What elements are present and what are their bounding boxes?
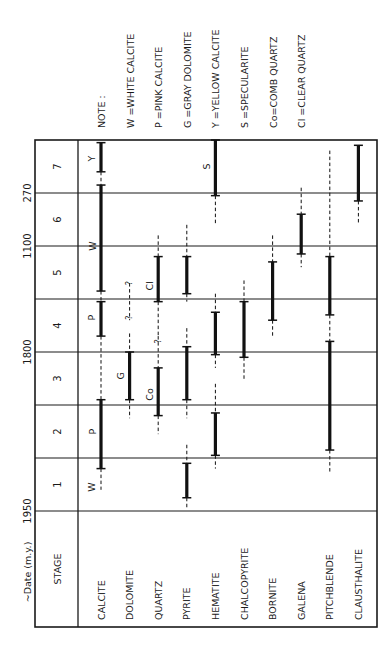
phase-label: W	[87, 241, 98, 251]
phase-label: Y	[87, 155, 98, 162]
stage-number: 6	[52, 216, 63, 222]
phase-label: W	[87, 482, 98, 492]
phase-label: ?	[125, 315, 134, 319]
stage-header: STAGE	[52, 554, 63, 585]
stage-number: 4	[52, 322, 63, 328]
stage-number: 1	[52, 481, 63, 487]
phase-label: P	[87, 428, 98, 434]
mineral-column-pitchblende	[325, 151, 334, 474]
mineral-name-bornite: BORNITE	[267, 578, 278, 620]
mineral-column-calcite: WPPWY	[87, 143, 106, 492]
mineral-column-dolomite: G??	[115, 281, 134, 418]
mineral-name-hematite: HEMATITE	[210, 572, 221, 620]
phase-label: ?	[154, 339, 163, 343]
mineral-name-chalcopyrite: CHALCOPYRITE	[239, 548, 250, 620]
mineral-name-pitchblende: PITCHBLENDE	[324, 554, 335, 620]
phase-label: Cl	[144, 281, 155, 290]
phase-label: G	[115, 372, 126, 379]
phase-label: Co	[144, 388, 155, 401]
stage-table: 1234567STAGECALCITEDOLOMITEQUARTZPYRITEH…	[35, 140, 377, 627]
note-title: NOTE :	[96, 95, 107, 128]
paragenetic-diagram: NOTE :W =WHITE CALCITEP =PINK CALCITEG =…	[0, 0, 383, 654]
note-item: W =WHITE CALCITE	[125, 34, 136, 128]
note-item: P =PINK CALCITE	[153, 47, 164, 128]
stage-number: 5	[52, 269, 63, 275]
mineral-column-chalcopyrite	[240, 280, 249, 381]
note-legend: NOTE :W =WHITE CALCITEP =PINK CALCITEG =…	[96, 30, 308, 129]
date-tick-label: 1950	[22, 498, 33, 523]
mineral-column-galena	[297, 188, 306, 268]
mineral-name-quartz: QUARTZ	[153, 580, 164, 620]
mineral-column-quartz: Co?Cl	[144, 235, 163, 434]
stage-number: 2	[52, 428, 63, 434]
stage-number: 3	[52, 375, 63, 381]
mineral-name-pyrite: PYRITE	[181, 587, 192, 620]
mineral-column-hematite: S	[201, 140, 220, 469]
date-tick-label: 270	[22, 183, 33, 202]
mineral-column-pyrite	[182, 225, 191, 509]
note-item: Cl =CLEAR QUARTZ	[296, 34, 307, 128]
stage-number: 7	[52, 163, 63, 169]
mineral-name-dolomite: DOLOMITE	[124, 570, 135, 620]
mineral-bars: WPPWYG??Co?ClS	[87, 140, 363, 508]
date-tick-label: 1800	[22, 339, 33, 364]
mineral-name-calcite: CALCITE	[96, 580, 107, 620]
phase-label: P	[87, 314, 98, 320]
table-border	[35, 140, 377, 627]
date-axis: 195018001100270~Date (m.y.)	[22, 183, 33, 602]
phase-label: S	[201, 163, 212, 169]
note-item: S =SPECULARITE	[239, 46, 250, 128]
note-item: Y =YELLOW CALCITE	[210, 30, 221, 129]
mineral-name-galena: GALENA	[296, 581, 307, 620]
mineral-column-clausthalite	[354, 145, 363, 225]
date-axis-title: ~Date (m.y.)	[22, 542, 33, 603]
note-item: Co=COMB QUARTZ	[268, 36, 279, 128]
phase-label: ?	[125, 281, 134, 285]
date-tick-label: 1100	[22, 233, 33, 258]
mineral-name-clausthalite: CLAUSTHALITE	[353, 549, 364, 620]
mineral-column-bornite	[268, 235, 277, 336]
note-item: G =GRAY DOLOMITE	[182, 31, 193, 128]
